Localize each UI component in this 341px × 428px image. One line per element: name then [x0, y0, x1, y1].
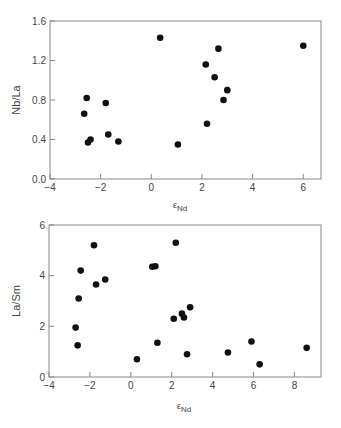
data-point — [102, 276, 109, 283]
data-point — [170, 315, 177, 322]
data-point — [204, 120, 211, 127]
y-axis-ticks: 0.00.40.81.21.6 — [32, 16, 55, 185]
x-tick-label: 6 — [300, 182, 306, 193]
data-point — [184, 351, 191, 358]
data-point — [225, 349, 232, 356]
data-point — [115, 138, 122, 145]
data-point — [154, 340, 161, 347]
data-point — [102, 100, 109, 107]
data-point — [105, 131, 112, 138]
y-tick-label: 0.8 — [32, 95, 46, 106]
data-points — [81, 34, 307, 147]
data-point — [93, 281, 100, 288]
x-axis-ticks: −4−20246 — [44, 174, 306, 193]
data-point — [300, 42, 307, 49]
data-point — [83, 95, 90, 102]
data-point — [256, 361, 263, 368]
x-tick-label: −2 — [95, 182, 107, 193]
x-tick-label: 0 — [128, 380, 134, 391]
y-tick-label: 6 — [39, 220, 45, 231]
data-point — [181, 314, 188, 321]
data-points — [72, 239, 310, 367]
y-axis-label: Nb/La — [10, 84, 22, 114]
x-tick-label: −2 — [84, 380, 96, 391]
data-point — [91, 242, 98, 249]
data-point — [224, 87, 231, 94]
y-tick-label: 0.4 — [32, 134, 46, 145]
data-point — [303, 345, 310, 352]
nb-la-scatter-chart: 0.00.40.81.21.6 −4−20246 Nb/La εNd — [10, 16, 321, 214]
y-tick-label: 2 — [39, 321, 45, 332]
data-point — [248, 338, 255, 345]
data-point — [74, 342, 81, 349]
y-axis-ticks: 0246 — [39, 220, 54, 383]
x-axis-ticks: −4−202468 — [43, 372, 297, 391]
data-point — [211, 74, 218, 81]
y-tick-label: 1.6 — [32, 16, 46, 27]
data-point — [77, 267, 84, 274]
y-tick-label: 4 — [39, 270, 45, 281]
x-tick-label: 4 — [210, 380, 216, 391]
data-point — [87, 136, 94, 143]
data-point — [157, 34, 164, 41]
data-point — [75, 295, 82, 302]
data-point — [81, 111, 88, 118]
data-point — [72, 324, 79, 331]
data-point — [152, 263, 159, 270]
x-tick-label: −4 — [44, 182, 56, 193]
data-point — [215, 45, 222, 52]
data-point — [172, 239, 179, 246]
data-point — [175, 141, 182, 148]
x-tick-label: 4 — [250, 182, 256, 193]
data-point — [202, 61, 209, 68]
x-tick-label: 8 — [292, 380, 298, 391]
x-tick-label: 6 — [251, 380, 257, 391]
data-point — [134, 356, 141, 363]
data-point — [187, 304, 194, 311]
x-axis-label: εNd — [177, 401, 191, 414]
data-point — [220, 97, 227, 104]
x-tick-label: 2 — [169, 380, 175, 391]
x-tick-label: 2 — [199, 182, 205, 193]
la-sm-scatter-chart: 0246 −4−202468 La/Sm εNd — [10, 220, 321, 415]
plot-frame — [50, 21, 321, 179]
x-tick-label: −4 — [43, 380, 55, 391]
figure-canvas: 0.00.40.81.21.6 −4−20246 Nb/La εNd 0246 … — [0, 0, 341, 428]
y-axis-label: La/Sm — [10, 285, 22, 317]
y-tick-label: 1.2 — [32, 55, 46, 66]
x-axis-label: εNd — [173, 200, 187, 213]
x-tick-label: 0 — [149, 182, 155, 193]
